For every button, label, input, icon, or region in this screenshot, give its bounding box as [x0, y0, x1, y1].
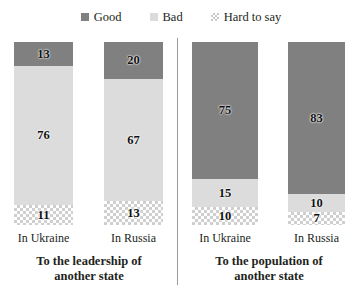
group-label-leadership-line1: To the leadership of: [8, 254, 170, 269]
group-label-leadership-line2: another state: [8, 269, 170, 284]
bar-value-hard-to-say: 10: [219, 210, 232, 223]
bar-group0-in-ukraine: 13 76 11: [14, 42, 73, 225]
bar-group0-in-russia: 20 67 13: [104, 42, 163, 225]
x-axis-label-group1-in-russia: In Russia: [288, 232, 345, 245]
bar-group1-in-ukraine: 75 15 10: [192, 42, 258, 225]
bar-value-bad: 76: [37, 129, 50, 142]
bar-segment-bad: 10: [288, 194, 345, 212]
bar-segment-bad: 15: [192, 179, 258, 206]
x-axis-label-group0-in-russia: In Russia: [104, 232, 163, 245]
bar-segment-hard-to-say: 11: [14, 205, 73, 225]
bar-segment-hard-to-say: 7: [288, 212, 345, 225]
bar-segment-good: 20: [104, 42, 163, 79]
bar-value-bad: 10: [310, 197, 323, 210]
group-label-leadership: To the leadership of another state: [8, 254, 170, 284]
bar-segment-bad: 67: [104, 79, 163, 202]
x-axis-label-group0-in-ukraine: In Ukraine: [14, 232, 73, 245]
bar-segment-good: 83: [288, 42, 345, 194]
bar-segment-hard-to-say: 13: [104, 201, 163, 225]
bar-value-bad: 67: [127, 134, 140, 147]
bar-segment-hard-to-say: 10: [192, 207, 258, 225]
bar-value-hard-to-say: 7: [313, 212, 319, 225]
bar-value-good: 13: [37, 48, 50, 61]
bar-segment-good: 13: [14, 42, 73, 66]
bar-value-good: 75: [219, 104, 232, 117]
stacked-bar-chart: 13 76 11 20 67 13 75 15 10: [0, 0, 362, 302]
bar-group1-in-russia: 83 10 7: [288, 42, 345, 225]
group-label-population-line1: To the population of: [188, 254, 350, 269]
bar-value-bad: 15: [219, 187, 232, 200]
x-axis-label-group1-in-ukraine: In Ukraine: [192, 232, 258, 245]
group-label-population: To the population of another state: [188, 254, 350, 284]
bar-segment-bad: 76: [14, 66, 73, 205]
bar-value-good: 83: [310, 112, 323, 125]
bar-value-hard-to-say: 11: [38, 209, 50, 222]
bar-segment-good: 75: [192, 42, 258, 179]
group-divider: [177, 38, 178, 285]
group-label-population-line2: another state: [188, 269, 350, 284]
bar-value-hard-to-say: 13: [127, 207, 140, 220]
bar-value-good: 20: [127, 54, 140, 67]
